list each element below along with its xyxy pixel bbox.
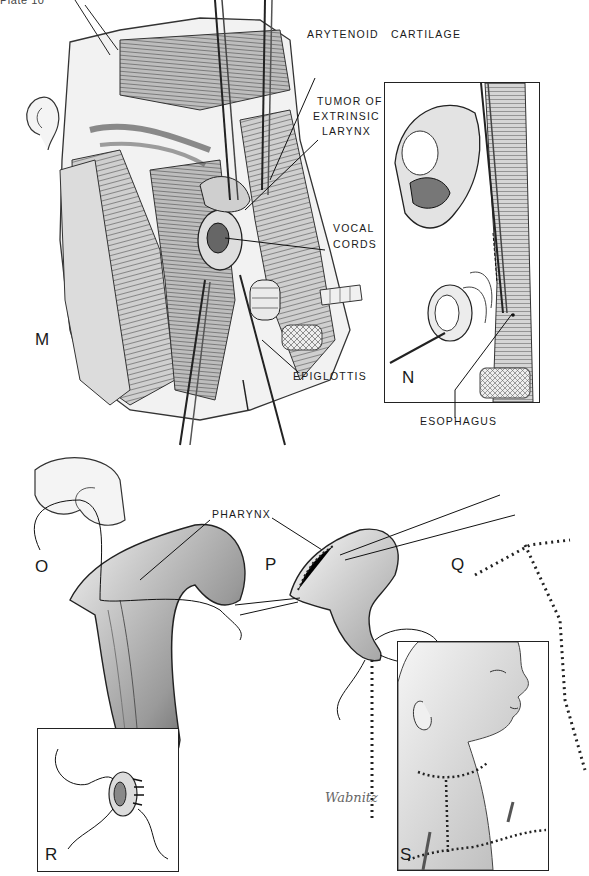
label-tumor-line3: LARYNX bbox=[322, 125, 371, 138]
neck-closure-drawing bbox=[398, 642, 548, 870]
panel-letter-o: O bbox=[35, 557, 48, 577]
label-vocal-cords-line2: CORDS bbox=[333, 238, 377, 251]
label-arytenoid: ARYTENOID bbox=[307, 28, 379, 41]
label-pharynx: PHARYNX bbox=[212, 508, 271, 521]
panel-letter-n: N bbox=[402, 368, 414, 388]
larynx-esophagus-drawing bbox=[385, 83, 539, 402]
panel-letter-s: S bbox=[400, 845, 411, 865]
label-vocal-cords-line1: VOCAL bbox=[333, 222, 375, 235]
panel-r-frame bbox=[37, 728, 179, 872]
panel-s-frame bbox=[397, 641, 549, 871]
artist-signature: Wabnitz bbox=[325, 790, 378, 805]
label-tumor-line1: TUMOR OF bbox=[317, 95, 383, 108]
pharyngeal-closure-drawing bbox=[38, 729, 178, 871]
panel-letter-m: M bbox=[35, 330, 49, 350]
panel-n-frame bbox=[384, 82, 540, 403]
panel-letter-p: P bbox=[265, 555, 276, 575]
panel-letter-q: Q bbox=[451, 555, 464, 575]
label-epiglottis: EPIGLOTTIS bbox=[293, 370, 367, 383]
label-tumor-line2: EXTRINSIC bbox=[313, 110, 380, 123]
label-cartilage: CARTILAGE bbox=[391, 28, 461, 41]
panel-letter-r: R bbox=[45, 845, 57, 865]
label-esophagus: ESOPHAGUS bbox=[420, 415, 497, 428]
